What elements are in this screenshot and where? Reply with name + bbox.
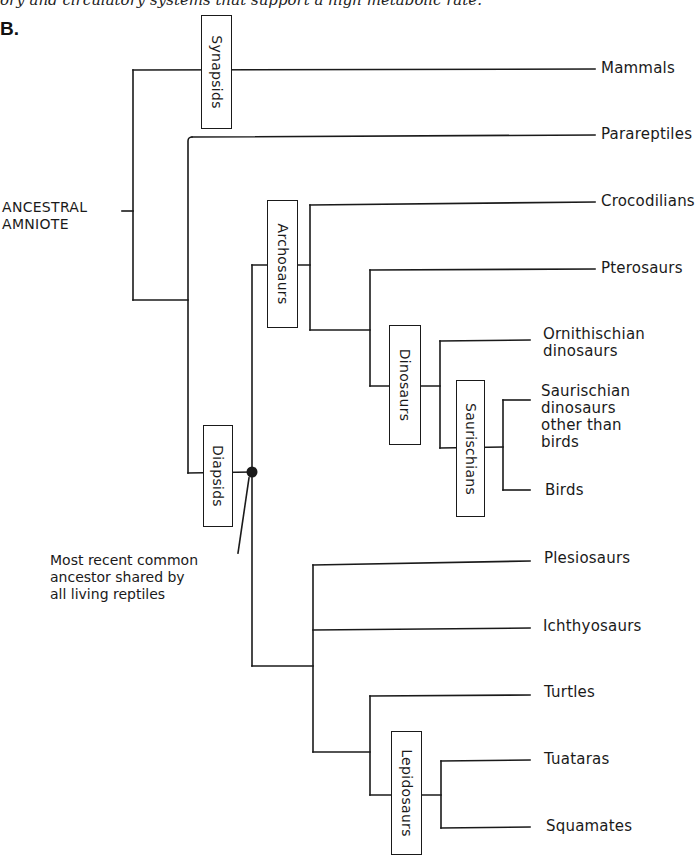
clade-label-lepidosaurs: Lepidosaurs <box>399 749 415 837</box>
clade-box-archosaurs: Archosaurs <box>267 200 298 328</box>
taxon-mammals: Mammals <box>601 60 675 77</box>
taxon-turtles: Turtles <box>544 684 595 701</box>
taxon-pterosaurs: Pterosaurs <box>601 260 683 277</box>
common-ancestor-annotation: Most recent common ancestor shared by al… <box>50 552 198 603</box>
taxon-saurischian-line2: dinosaurs <box>541 400 630 417</box>
clade-box-diapsids: Diapsids <box>203 425 233 527</box>
taxon-plesiosaurs: Plesiosaurs <box>544 550 630 567</box>
taxon-ornithischian-line2: dinosaurs <box>543 343 645 360</box>
taxon-parareptiles: Parareptiles <box>601 126 692 143</box>
annotation-line3: all living reptiles <box>50 586 198 603</box>
root-label-line1: ANCESTRAL <box>2 199 87 216</box>
root-label-line2: AMNIOTE <box>2 216 87 233</box>
common-ancestor-node-dot <box>247 467 258 478</box>
taxon-saurischian-non-bird-dinosaurs: Saurischian dinosaurs other than birds <box>541 383 630 451</box>
annotation-line2: ancestor shared by <box>50 569 198 586</box>
taxon-ornithischian-line1: Ornithischian <box>543 326 645 343</box>
taxon-ichthyosaurs: Ichthyosaurs <box>543 618 642 635</box>
taxon-saurischian-line4: birds <box>541 434 630 451</box>
taxon-saurischian-line3: other than <box>541 417 630 434</box>
ancestral-amniote-label: ANCESTRAL AMNIOTE <box>2 199 87 233</box>
clade-box-dinosaurs: Dinosaurs <box>389 325 421 445</box>
clade-box-saurischians: Saurischians <box>456 380 485 517</box>
clade-label-synapsids: Synapsids <box>209 35 225 109</box>
taxon-birds: Birds <box>545 482 584 499</box>
taxon-tuataras: Tuataras <box>544 751 609 768</box>
clade-label-saurischians: Saurischians <box>463 402 479 494</box>
clade-box-synapsids: Synapsids <box>201 15 232 129</box>
taxon-crocodilians: Crocodilians <box>601 193 695 210</box>
clade-label-diapsids: Diapsids <box>210 445 226 507</box>
taxon-ornithischian-dinosaurs: Ornithischian dinosaurs <box>543 326 645 360</box>
taxon-squamates: Squamates <box>546 818 632 835</box>
annotation-line1: Most recent common <box>50 552 198 569</box>
clade-label-dinosaurs: Dinosaurs <box>397 349 413 422</box>
clade-box-lepidosaurs: Lepidosaurs <box>391 731 422 855</box>
clade-label-archosaurs: Archosaurs <box>275 224 291 305</box>
taxon-saurischian-line1: Saurischian <box>541 383 630 400</box>
